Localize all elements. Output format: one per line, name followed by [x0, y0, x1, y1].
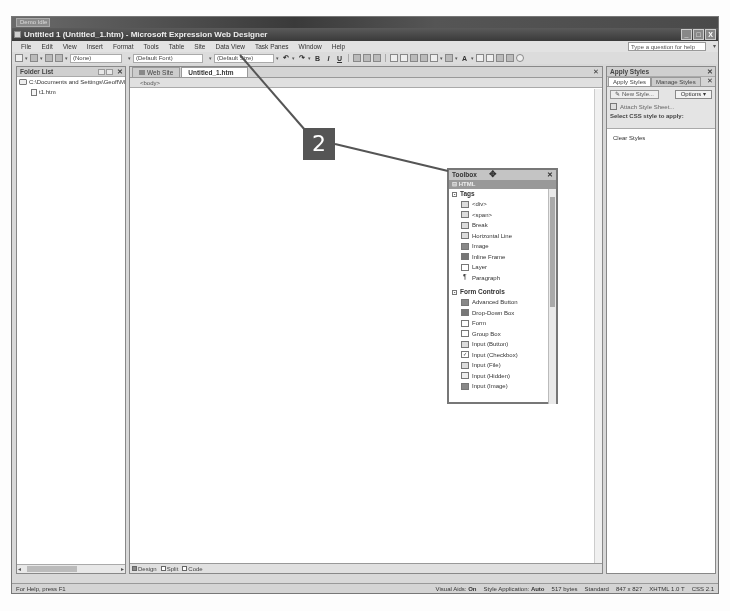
doctype-status[interactable]: XHTML 1.0 T	[649, 584, 684, 594]
new-folder-icon[interactable]	[98, 69, 105, 75]
new-page-icon[interactable]	[15, 54, 23, 62]
toolbox-item-form[interactable]: Form	[449, 318, 556, 329]
preview-dropdown-icon[interactable]: ▾	[65, 55, 68, 61]
tab-manage-styles[interactable]: Manage Styles	[651, 77, 701, 86]
tree-root-folder[interactable]: C:\Documents and Settings\Geoff\M	[17, 77, 125, 87]
style-application-status[interactable]: Style Application: Auto	[484, 584, 545, 594]
insert-layer-icon[interactable]	[486, 54, 494, 62]
insert-table-icon[interactable]	[476, 54, 484, 62]
align-right-icon[interactable]	[373, 54, 381, 62]
group-form-controls[interactable]: -Form Controls	[449, 287, 556, 297]
web-component-icon[interactable]	[506, 54, 514, 62]
preview-icon[interactable]	[55, 54, 63, 62]
menu-window[interactable]: Window	[294, 43, 327, 50]
toolbox-scrollbar[interactable]	[548, 189, 556, 404]
tab-untitled-1[interactable]: Untitled_1.htm	[181, 67, 248, 77]
group-tags[interactable]: -Tags	[449, 189, 556, 199]
new-dropdown-icon[interactable]: ▾	[25, 55, 28, 61]
toolbox-item-input-hidden[interactable]: Input (Hidden)	[449, 371, 556, 382]
menu-table[interactable]: Table	[164, 43, 190, 50]
toolbox-item-break[interactable]: Break	[449, 220, 556, 231]
font-color-icon[interactable]: A	[460, 55, 469, 62]
toolbox-item-paragraph[interactable]: ¶Paragraph	[449, 273, 556, 284]
highlight-icon[interactable]	[445, 54, 453, 62]
tab-apply-styles[interactable]: Apply Styles	[608, 77, 651, 86]
new-page-icon[interactable]	[106, 69, 113, 75]
toolbox-item-group-box[interactable]: Group Box	[449, 329, 556, 340]
mode-status[interactable]: Standard	[585, 584, 609, 594]
horizontal-scrollbar[interactable]: ◂ ▸	[17, 564, 125, 573]
toolbox-item-horizontal-line[interactable]: Horizontal Line	[449, 231, 556, 242]
toolbox-item-input-checkbox[interactable]: ✓Input (Checkbox)	[449, 350, 556, 361]
font-color-dropdown-icon[interactable]: ▾	[471, 55, 474, 61]
borders-dropdown-icon[interactable]: ▾	[440, 55, 443, 61]
scroll-left-icon[interactable]: ◂	[18, 565, 21, 572]
size-dropdown-icon[interactable]: ▾	[209, 55, 212, 61]
tree-file-item[interactable]: t1.htm	[17, 87, 125, 97]
open-icon[interactable]	[30, 54, 38, 62]
menu-format[interactable]: Format	[108, 43, 139, 50]
underline-button[interactable]: U	[335, 55, 344, 62]
style-select[interactable]: (None)	[70, 54, 122, 63]
italic-button[interactable]: I	[324, 55, 333, 62]
menu-data-view[interactable]: Data View	[210, 43, 250, 50]
toolbox-category-html[interactable]: ⊟ HTML	[449, 180, 556, 189]
align-left-icon[interactable]	[353, 54, 361, 62]
increase-indent-icon[interactable]	[420, 54, 428, 62]
menu-edit[interactable]: Edit	[36, 43, 57, 50]
toolbox-item-input-button[interactable]: Input (Button)	[449, 339, 556, 350]
minimize-button[interactable]: _	[681, 29, 692, 40]
taskbar-button[interactable]: Demo Idle	[16, 18, 50, 27]
undo-icon[interactable]: ↶	[281, 54, 290, 62]
insert-picture-icon[interactable]	[496, 54, 504, 62]
borders-icon[interactable]	[430, 54, 438, 62]
menu-file[interactable]: File	[16, 43, 36, 50]
toolbox-item-layer[interactable]: Layer	[449, 262, 556, 273]
new-style-button[interactable]: ✎ New Style...	[610, 90, 659, 99]
toolbox-item-image[interactable]: Image	[449, 241, 556, 252]
highlight-dropdown-icon[interactable]: ▾	[455, 55, 458, 61]
toolbox-item-inline-frame[interactable]: Inline Frame	[449, 252, 556, 263]
close-icon[interactable]: ✕	[117, 67, 123, 77]
help-search-input[interactable]: Type a question for help	[628, 42, 706, 51]
redo-icon[interactable]: ↷	[297, 54, 306, 62]
hyperlink-icon[interactable]	[516, 54, 524, 62]
tab-web-site[interactable]: Web Site	[132, 67, 180, 77]
font-dropdown-icon[interactable]: ▾	[128, 55, 131, 61]
toolbox-item-input-image[interactable]: Input (Image)	[449, 381, 556, 392]
bulleted-list-icon[interactable]	[400, 54, 408, 62]
close-button[interactable]: X	[705, 29, 716, 40]
toolbox-item-input-file[interactable]: Input (File)	[449, 360, 556, 371]
view-design[interactable]: Design	[132, 566, 157, 572]
toolbox-item-span[interactable]: <span>	[449, 210, 556, 221]
view-code[interactable]: Code	[182, 566, 202, 572]
save-icon[interactable]	[45, 54, 53, 62]
menu-task-panes[interactable]: Task Panes	[250, 43, 294, 50]
scroll-thumb[interactable]	[27, 566, 77, 572]
menu-insert[interactable]: Insert	[82, 43, 108, 50]
size-select[interactable]: (Default Size)	[214, 54, 274, 63]
close-tab-icon[interactable]: ✕	[707, 77, 713, 85]
restore-button[interactable]: □	[693, 29, 704, 40]
vertical-scrollbar[interactable]	[594, 89, 602, 563]
clear-styles-item[interactable]: Clear Styles	[613, 135, 709, 141]
toolbox-item-drop-down-box[interactable]: Drop-Down Box	[449, 308, 556, 319]
redo-dropdown-icon[interactable]: ▾	[308, 55, 311, 61]
open-dropdown-icon[interactable]: ▾	[40, 55, 43, 61]
attach-style-sheet-link[interactable]: Attach Style Sheet...	[610, 103, 712, 110]
help-dropdown-icon[interactable]: ▾	[713, 42, 716, 49]
css-status[interactable]: CSS 2.1	[692, 584, 714, 594]
view-split[interactable]: Split	[161, 566, 179, 572]
numbered-list-icon[interactable]	[390, 54, 398, 62]
menu-site[interactable]: Site	[189, 43, 210, 50]
menu-tools[interactable]: Tools	[139, 43, 164, 50]
close-document-icon[interactable]: ✕	[593, 68, 599, 76]
toolbox-panel[interactable]: Toolbox ✥ ✕ ⊟ HTML -Tags <div> <span> Br…	[447, 168, 558, 404]
close-icon[interactable]: ✕	[707, 67, 713, 77]
size-arrow-icon[interactable]: ▾	[276, 55, 279, 61]
visual-aids-status[interactable]: Visual Aids: On	[436, 584, 477, 594]
menu-view[interactable]: View	[58, 43, 82, 50]
scroll-right-icon[interactable]: ▸	[121, 565, 124, 572]
options-button[interactable]: Options ▾	[675, 90, 712, 99]
close-icon[interactable]: ✕	[547, 170, 553, 180]
